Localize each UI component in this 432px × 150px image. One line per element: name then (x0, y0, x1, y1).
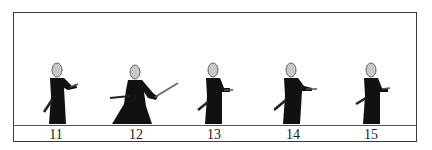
figure-15-icon (354, 60, 394, 126)
figure-12-icon (108, 60, 180, 126)
figure-11-icon (40, 60, 80, 126)
figure-13-icon (196, 60, 236, 126)
frame-label: 13 (199, 127, 229, 143)
figure-14-icon (274, 60, 320, 126)
frame-label: 14 (278, 127, 308, 143)
frame-label: 15 (356, 127, 386, 143)
frame-label: 12 (121, 127, 151, 143)
frame-label: 11 (41, 127, 71, 143)
